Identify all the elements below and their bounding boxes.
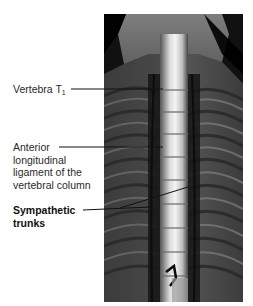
label-line: vertebral column: [13, 179, 91, 192]
label-anterior-longitudinal-ligament: Anterior longitudinal ligament of the ve…: [13, 141, 91, 191]
label-vertebra-t1-subscript: 1: [62, 89, 66, 96]
leader-line-sympathetic-left: [83, 207, 150, 210]
label-line: Anterior: [13, 141, 91, 154]
label-line: ligament of the: [13, 166, 91, 179]
label-vertebra-t1: Vertebra T1: [13, 83, 66, 100]
label-sympathetic-trunks: Sympathetic trunks: [13, 204, 75, 229]
label-line: Sympathetic: [13, 204, 75, 217]
leader-line-sympathetic-right: [120, 187, 188, 208]
label-vertebra-t1-text: Vertebra T: [13, 83, 62, 95]
label-line: longitudinal: [13, 154, 91, 167]
label-line: trunks: [13, 217, 75, 230]
